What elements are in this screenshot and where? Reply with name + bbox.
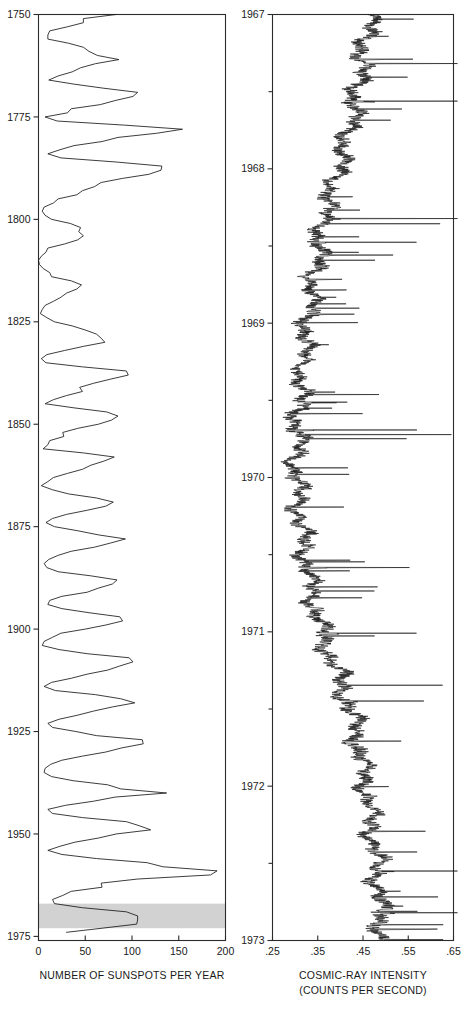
x-axis-tick-label: .45 (356, 945, 371, 957)
x-axis-tick-label: .55 (401, 945, 416, 957)
x-axis-caption-line1: COSMIC-RAY INTENSITY (299, 969, 427, 981)
x-axis-caption-line2: (COUNTS PER SECOND) (299, 984, 426, 996)
x-axis-tick-label: .65 (446, 945, 461, 957)
figure-container: 1750177518001825185018751900192519501975… (0, 0, 469, 1015)
y-axis-tick-label: 1968 (241, 162, 265, 174)
x-axis-tick-label: .25 (265, 945, 280, 957)
y-axis-tick-label: 1973 (241, 934, 265, 946)
y-axis-tick-label: 1971 (241, 625, 265, 637)
x-axis-tick-label: .35 (310, 945, 325, 957)
y-axis-tick-label: 1972 (241, 780, 265, 792)
cosmic-ray-panel: 1967196819691970197119721973.25.35.45.55… (0, 0, 469, 1015)
cosmic-ray-trace (281, 15, 458, 941)
y-axis-tick-label: 1969 (241, 317, 265, 329)
y-axis-tick-label: 1970 (241, 471, 265, 483)
y-axis-tick-label: 1967 (241, 8, 265, 20)
